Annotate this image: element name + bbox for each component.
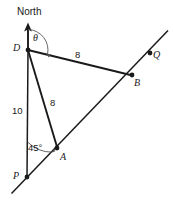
diagram-canvas bbox=[0, 0, 173, 210]
geometry-diagram: North D P A B Q θ 45° 8 8 10 bbox=[0, 0, 173, 210]
length-label-db: 8 bbox=[75, 50, 80, 60]
north-label: North bbox=[17, 7, 41, 17]
point-label-a: A bbox=[60, 152, 66, 162]
vertex-dot-a bbox=[55, 146, 60, 151]
point-label-q: Q bbox=[153, 50, 160, 60]
point-label-d: D bbox=[13, 43, 20, 53]
theta-label: θ bbox=[33, 33, 38, 43]
length-label-dp: 10 bbox=[12, 106, 23, 116]
angle-45-label: 45° bbox=[28, 143, 42, 153]
vertex-dot-d bbox=[26, 48, 31, 53]
length-label-da: 8 bbox=[50, 98, 55, 108]
point-label-p: P bbox=[13, 171, 19, 181]
segment-d-p bbox=[27, 50, 28, 178]
segment-p-q-line bbox=[12, 31, 169, 194]
vertex-dot-q bbox=[148, 51, 153, 56]
point-label-b: B bbox=[134, 78, 140, 88]
vertex-dot-p bbox=[25, 175, 30, 180]
north-arrow bbox=[24, 23, 32, 51]
